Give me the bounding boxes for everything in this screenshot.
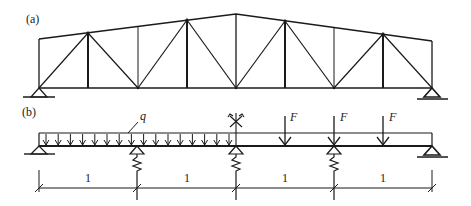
panel-a-label: (a) bbox=[26, 12, 39, 26]
spring-support-icon bbox=[130, 146, 144, 200]
force-label: F bbox=[388, 110, 397, 124]
span-label: 1 bbox=[380, 171, 386, 185]
point-force-1: F bbox=[279, 110, 298, 145]
truss-diagonal bbox=[236, 21, 285, 88]
truss-diagonal bbox=[334, 34, 383, 88]
truss-diagonal bbox=[383, 34, 432, 88]
truss-diagonal bbox=[138, 20, 187, 88]
q-leader-line bbox=[128, 122, 138, 133]
span-label: 1 bbox=[282, 171, 288, 185]
pin-support-icon bbox=[23, 88, 55, 97]
pin-support-icon bbox=[24, 146, 55, 154]
truss-diagonal bbox=[39, 33, 88, 88]
span-label: 1 bbox=[85, 171, 91, 185]
truss-diagonal bbox=[88, 33, 138, 88]
truss-diagonal bbox=[285, 21, 334, 88]
force-label: F bbox=[339, 110, 348, 124]
rotation-symbol-icon bbox=[228, 113, 244, 146]
spring-support-icon bbox=[327, 146, 341, 200]
structural-diagram: (a) bbox=[0, 0, 471, 206]
beam-panel-b: (b) q F F F bbox=[22, 105, 448, 200]
point-force-2: F bbox=[328, 110, 348, 145]
q-label: q bbox=[140, 109, 146, 123]
panel-b-label: (b) bbox=[22, 105, 36, 119]
roller-support-icon bbox=[417, 146, 448, 157]
force-label: F bbox=[289, 110, 298, 124]
span-label: 1 bbox=[184, 171, 190, 185]
point-force-3: F bbox=[377, 110, 397, 145]
truss-diagonal bbox=[187, 20, 236, 88]
distributed-load-arrows bbox=[43, 134, 232, 145]
roller-support-icon bbox=[417, 88, 448, 99]
truss-panel-a: (a) bbox=[23, 12, 448, 99]
spring-support-icon bbox=[229, 146, 243, 200]
